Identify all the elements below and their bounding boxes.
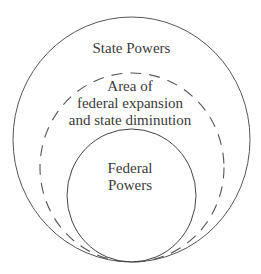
state-powers-label: State Powers [60, 40, 203, 57]
federal-powers-circle [67, 129, 196, 262]
federal-powers-label: Federal Powers [90, 160, 170, 194]
federal-expansion-label-line-3: and state diminution [55, 112, 205, 129]
federal-expansion-label-line-1: Area of [55, 78, 205, 95]
federal-expansion-label: Area of federal expansion and state dimi… [55, 78, 205, 129]
federal-powers-label-line-1: Federal [90, 160, 170, 177]
federal-powers-label-line-2: Powers [90, 177, 170, 194]
federal-expansion-label-line-2: federal expansion [55, 95, 205, 112]
